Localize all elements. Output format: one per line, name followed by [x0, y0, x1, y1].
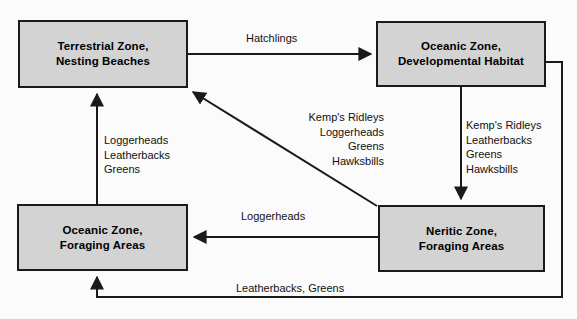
edge-label-right-4: Hawksbills	[466, 162, 541, 177]
edge-label-developmental-to-neritic: Kemp's Ridleys Leatherbacks Greens Hawks…	[466, 118, 541, 176]
edge-label-neritic-to-terrestrial: Kemp's Ridleys Loggerheads Greens Hawksb…	[262, 110, 384, 168]
edge-label-hatchlings-text: Hatchlings	[246, 31, 297, 46]
edge-label-loggerheads: Loggerheads	[241, 209, 305, 224]
node-neritic-line2: Foraging Areas	[419, 239, 504, 254]
node-oceanic-for-line1: Oceanic Zone,	[63, 223, 143, 238]
edge-label-right-2: Leatherbacks	[466, 133, 541, 148]
edge-label-hatchlings: Hatchlings	[246, 31, 297, 46]
edge-label-center-2: Loggerheads	[262, 125, 384, 140]
node-terrestrial-line1: Terrestrial Zone,	[58, 39, 149, 54]
edge-label-loggerheads-text: Loggerheads	[241, 209, 305, 224]
edge-label-center-1: Kemp's Ridleys	[262, 110, 384, 125]
node-terrestrial-line2: Nesting Beaches	[56, 54, 150, 69]
node-oceanic-for-line2: Foraging Areas	[60, 238, 145, 253]
node-terrestrial-zone[interactable]: Terrestrial Zone, Nesting Beaches	[18, 20, 188, 88]
edge-label-left-1: Loggerheads	[104, 133, 170, 148]
edge-label-leatherbacks-greens: Leatherbacks, Greens	[236, 281, 344, 296]
node-oceanic-dev-line2: Developmental Habitat	[398, 54, 524, 69]
edge-label-right-3: Greens	[466, 147, 541, 162]
edge-label-center-3: Greens	[262, 139, 384, 154]
edge-label-oceanic-foraging-to-terrestrial: Loggerheads Leatherbacks Greens	[104, 133, 170, 177]
edge-label-leatherbacks-greens-text: Leatherbacks, Greens	[236, 281, 344, 296]
node-oceanic-developmental-habitat[interactable]: Oceanic Zone, Developmental Habitat	[376, 21, 546, 87]
node-oceanic-foraging-areas[interactable]: Oceanic Zone, Foraging Areas	[17, 204, 188, 271]
edge-label-right-1: Kemp's Ridleys	[466, 118, 541, 133]
node-oceanic-dev-line1: Oceanic Zone,	[421, 39, 501, 54]
node-neritic-line1: Neritic Zone,	[426, 224, 497, 239]
node-neritic-foraging-areas[interactable]: Neritic Zone, Foraging Areas	[378, 205, 545, 272]
edge-label-center-4: Hawksbills	[262, 154, 384, 169]
diagram-canvas: Terrestrial Zone, Nesting Beaches Oceani…	[0, 0, 577, 319]
edge-label-left-2: Leatherbacks	[104, 148, 170, 163]
edge-label-left-3: Greens	[104, 162, 170, 177]
